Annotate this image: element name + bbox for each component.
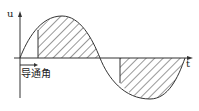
waveform-diagram xyxy=(0,0,199,111)
y-axis-label: u xyxy=(7,9,13,19)
conduction-angle-arrowhead-icon xyxy=(34,63,38,67)
negative-conduction-region xyxy=(120,58,185,99)
conduction-angle-label: 导通角 xyxy=(21,69,51,79)
x-axis-label: t xyxy=(186,59,190,69)
y-axis-arrow-icon xyxy=(18,11,22,17)
positive-conduction-region xyxy=(38,16,100,58)
